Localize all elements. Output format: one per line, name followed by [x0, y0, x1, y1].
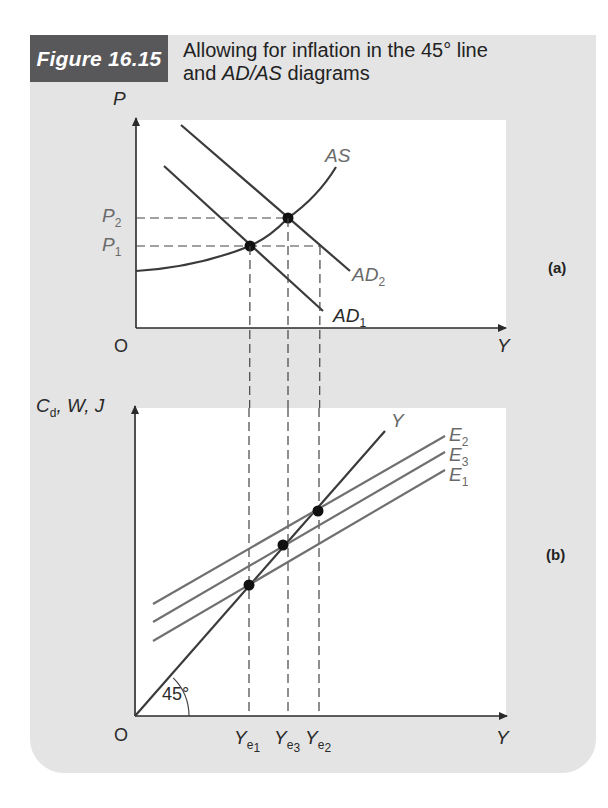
y-line-label: Y [391, 410, 405, 431]
origin-label-b: O [114, 725, 128, 745]
expenditure-axis-label: Cd, W, J [36, 395, 105, 420]
ye2-label: Ye2 [305, 727, 331, 755]
panel-a-background [136, 120, 506, 328]
angle-label: 45° [162, 684, 189, 704]
diagram-canvas: P P2 P1 AS AD2 AD1 O Y (a) Cd, W, [0, 0, 608, 808]
p1-label: P1 [102, 234, 122, 259]
as-label: AS [324, 145, 351, 166]
equilibrium-point-e2 [313, 506, 324, 517]
price-axis-label: P [113, 88, 126, 109]
output-axis-label-a: Y [497, 335, 511, 356]
panel-a-tag: (a) [548, 259, 566, 276]
equilibrium-point-e1 [244, 580, 255, 591]
equilibrium-point-e3 [278, 540, 289, 551]
panel-a: P P2 P1 AS AD2 AD1 O Y (a) [102, 88, 566, 356]
ye3-label: Ye3 [274, 727, 300, 755]
output-axis-label-b: Y [496, 727, 510, 748]
ye1-label: Ye1 [234, 727, 260, 755]
origin-label-a: O [114, 336, 128, 356]
p2-label: P2 [102, 205, 122, 230]
panel-b-tag: (b) [546, 546, 565, 563]
panel-b: Cd, W, J Y E2 E3 E1 45° O Ye1 Ye3 Ye2 Y … [36, 395, 565, 755]
